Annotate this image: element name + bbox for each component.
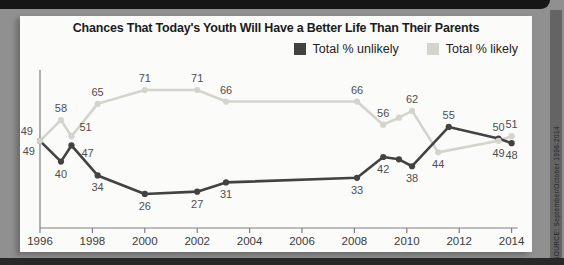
point-label: 26 xyxy=(139,200,151,212)
chart-panel: Chances That Today's Youth Will Have a B… xyxy=(20,16,532,252)
bottom-bar xyxy=(0,258,564,265)
legend-item-unlikely: Total % unlikely xyxy=(294,42,399,56)
x-tick-label: 1998 xyxy=(80,235,106,247)
x-tick-label: 2012 xyxy=(446,235,472,247)
series-markers-1 xyxy=(37,87,515,156)
x-tick-label: 2008 xyxy=(342,235,368,247)
point-label: 71 xyxy=(191,72,203,84)
source-note: SOURCE: September/October 1996-2014 xyxy=(553,126,560,265)
point-label: 49 xyxy=(21,125,33,137)
x-tick-label: 2004 xyxy=(237,235,263,247)
point-label: 49 xyxy=(492,147,504,159)
point-label: 44 xyxy=(432,158,444,170)
point-label: 49 xyxy=(23,145,35,157)
chart-title: Chances That Today's Youth Will Have a B… xyxy=(20,21,532,35)
legend-label-unlikely: Total % unlikely xyxy=(313,42,399,56)
point-label: 50 xyxy=(492,121,504,133)
point-label: 55 xyxy=(443,109,455,121)
legend: Total % unlikely Total % likely xyxy=(20,42,518,56)
x-tick-label: 2000 xyxy=(132,235,158,247)
legend-item-likely: Total % likely xyxy=(427,42,518,56)
point-label: 33 xyxy=(351,184,363,196)
point-label: 51 xyxy=(79,121,91,133)
x-tick-label: 1996 xyxy=(27,235,53,247)
legend-label-likely: Total % likely xyxy=(446,42,518,56)
x-tick-label: 2014 xyxy=(499,235,525,247)
source-strip: SOURCE: September/October 1996-2014 xyxy=(550,10,562,265)
point-label: 65 xyxy=(92,86,104,98)
point-label: 66 xyxy=(351,84,363,96)
point-label: 42 xyxy=(377,163,389,175)
unlikely-swatch-icon xyxy=(294,43,306,55)
point-label: 62 xyxy=(406,93,418,105)
likely-swatch-icon xyxy=(427,43,439,55)
point-label: 47 xyxy=(81,147,93,159)
top-bar xyxy=(0,0,550,9)
point-label: 48 xyxy=(505,149,517,161)
point-label: 31 xyxy=(220,188,232,200)
x-tick-label: 2006 xyxy=(289,235,315,247)
point-label: 27 xyxy=(191,198,203,210)
x-tick-label: 2010 xyxy=(394,235,420,247)
point-label: 51 xyxy=(505,118,517,130)
trend-chart: 1996199820002002200420062008201020122014… xyxy=(26,60,532,252)
point-label: 40 xyxy=(55,168,67,180)
point-label: 38 xyxy=(406,172,418,184)
series-labels-1: 49585165717166665662444951 xyxy=(21,72,518,170)
point-label: 71 xyxy=(139,72,151,84)
point-label: 56 xyxy=(377,107,389,119)
x-tick-label: 2002 xyxy=(184,235,210,247)
point-label: 58 xyxy=(55,102,67,114)
point-label: 34 xyxy=(92,181,104,193)
series-line-1 xyxy=(40,90,512,152)
point-label: 66 xyxy=(220,84,232,96)
